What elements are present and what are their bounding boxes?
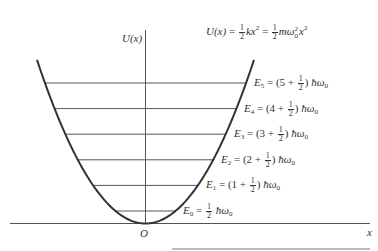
energy-level-label-5: E5 = (5 + 12) ħω0 [254,75,328,92]
equals-sign-2: = [262,25,268,37]
x-axis-label: x [367,227,372,238]
energy-level-label-1: E1 = (1 + 12) ħω0 [206,177,280,194]
potential-equation: U(x) = 12kx2 = 12mω20x2 [206,24,307,41]
term-m-omega: mω [279,25,295,37]
energy-level-label-3: E3 = (3 + 12) ħω0 [234,126,308,143]
energy-level-label-4: E4 = (4 + 12) ħω0 [244,101,318,118]
y-axis-label: U(x) [122,33,142,44]
term-kx: kx [246,25,256,37]
energy-level-label-0: E0 = 12 ħω0 [183,203,232,220]
potential-lhs: U(x) [206,25,226,37]
fraction-half: 12 [239,24,245,41]
origin-label: O [140,228,148,239]
energy-level-label-2: E2 = (2 + 12) ħω0 [221,152,295,169]
fraction-half-2: 12 [272,24,278,41]
equals-sign: = [229,25,235,37]
